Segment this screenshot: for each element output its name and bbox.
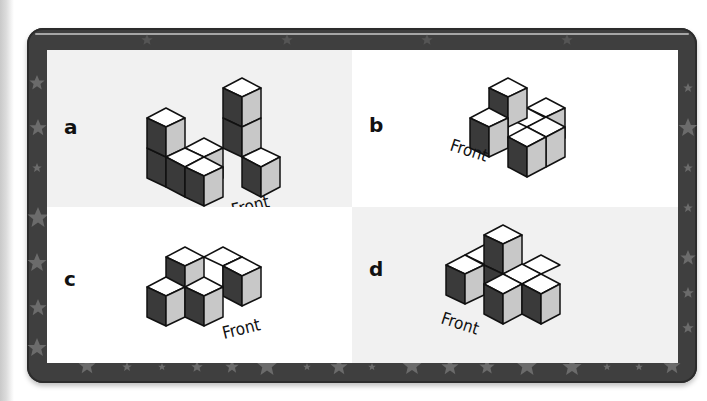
panel-b: b bbox=[352, 50, 678, 207]
panel-label-d: d bbox=[369, 257, 383, 281]
panel-label-b: b bbox=[369, 113, 383, 137]
cube-figure-d: Front bbox=[422, 225, 582, 345]
cube-figure-b: Front bbox=[427, 76, 577, 206]
frame-bevel-highlight bbox=[35, 33, 689, 35]
front-label-c: Front bbox=[220, 314, 262, 343]
panel-a: a bbox=[47, 50, 352, 207]
panel-label-a: a bbox=[64, 115, 78, 139]
panel-d: d bbox=[352, 207, 678, 363]
cube-figure-c: Front bbox=[142, 237, 302, 347]
front-label-d: Front bbox=[439, 308, 482, 339]
panel-label-c: c bbox=[64, 267, 76, 291]
page-edge-shadow bbox=[0, 0, 14, 401]
panel-c: c bbox=[47, 207, 352, 363]
cube-figure-a: Front bbox=[137, 64, 297, 204]
exercise-grid: a bbox=[47, 50, 678, 363]
star-frame: a bbox=[27, 28, 697, 383]
